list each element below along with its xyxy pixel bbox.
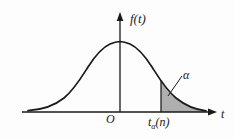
origin-label: O <box>106 113 115 125</box>
density-curve <box>28 42 206 111</box>
y-axis-label: f(t) <box>130 12 146 25</box>
y-axis <box>117 12 124 112</box>
t-distribution-figure: f(t) t O tα(n) α <box>0 0 235 139</box>
alpha-leader-line <box>168 76 182 96</box>
critical-value-label: tα(n) <box>148 116 170 131</box>
shaded-tail-region <box>161 81 206 113</box>
distribution-plot-canvas <box>0 0 235 139</box>
x-axis-label: t <box>221 108 224 120</box>
tail-area-alpha-label: α <box>183 69 189 81</box>
critical-value-arg: (n) <box>156 115 170 129</box>
